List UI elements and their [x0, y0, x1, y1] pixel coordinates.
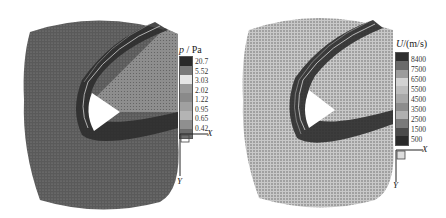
- pressure-axes-indicator: [0, 0, 223, 218]
- velocity-x-axis-label: X: [422, 144, 428, 154]
- pressure-contour-panel: p / Pa 20.7 5.52 3.03 2.02 1.22 0.95 0.6…: [0, 0, 223, 218]
- velocity-axes-indicator: [223, 0, 446, 218]
- velocity-contour-panel: U/(m/s) 8400 7500 6500 5500 4500 3500 25…: [223, 0, 446, 218]
- velocity-y-axis-label: Y: [393, 180, 398, 190]
- pressure-y-axis-label: Y: [177, 176, 182, 186]
- pressure-x-axis-label: X: [207, 128, 213, 138]
